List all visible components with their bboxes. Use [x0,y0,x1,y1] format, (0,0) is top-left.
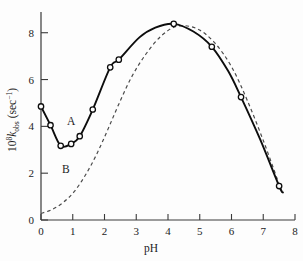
data-point [48,122,53,127]
x-tick-label: 2 [102,225,108,237]
data-point [90,107,95,112]
y-title-subscript: obs [12,121,21,132]
chart-figure: 02468 012345678 AB pH 108kobs (sec−1) [0,0,303,261]
y-tick-label: 2 [29,167,35,179]
data-point [209,44,214,49]
y-tick-label: 0 [29,214,35,226]
x-tick-label: 4 [165,225,171,237]
data-point [238,94,243,99]
x-tick-label: 8 [292,225,298,237]
y-tick-label: 6 [29,74,35,86]
x-tick-label: 6 [229,225,235,237]
y-title-units: (sec [6,100,19,119]
chart-svg: 02468 012345678 AB pH 108kobs (sec−1) [0,0,303,261]
x-tick-label: 3 [134,225,140,237]
data-point [38,104,43,109]
y-title-base: 10 [6,140,18,152]
chart-background [0,0,303,261]
data-point [171,21,176,26]
x-tick-label: 1 [70,225,76,237]
curve-a-label: A [67,115,76,127]
y-tick-label: 4 [29,120,35,132]
y-title-units-close: ) [6,88,19,92]
y-tick-label: 8 [29,27,35,39]
data-point [58,143,63,148]
data-point [68,141,73,146]
x-tick-label: 0 [38,225,44,237]
x-axis-title: pH [144,242,158,255]
y-title-units-exponent: −1 [5,92,14,100]
x-tick-label: 5 [197,225,203,237]
x-tick-label: 7 [261,225,267,237]
data-point [276,183,281,188]
data-point [108,65,113,70]
curve-b-label: B [62,163,70,175]
data-point [77,134,82,139]
data-point [116,57,121,62]
